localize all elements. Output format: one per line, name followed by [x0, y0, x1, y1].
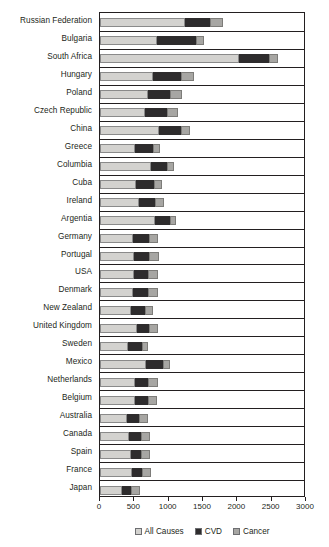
bar-segment-all-causes	[100, 450, 131, 459]
bar-segment-all-causes	[100, 342, 128, 351]
category-label: France	[66, 465, 92, 474]
legend-item: Cancer	[233, 527, 269, 536]
bar-group	[100, 72, 306, 81]
bar-segment-cvd	[155, 216, 170, 225]
bar-segment-cvd	[153, 72, 181, 81]
bar-segment-all-causes	[100, 72, 153, 81]
bar-segment-cvd	[131, 306, 145, 315]
row-separator	[100, 408, 304, 409]
row-separator	[100, 103, 304, 104]
bar-segment-all-causes	[100, 90, 148, 99]
bar-group	[100, 450, 306, 459]
bar-segment-cancer	[148, 378, 158, 387]
bar-segment-cvd	[157, 36, 196, 45]
x-axis-tick-label: 2500	[262, 502, 280, 511]
row-separator	[100, 318, 304, 319]
category-label: Australia	[60, 411, 92, 420]
row-separator	[100, 390, 304, 391]
row-separator	[100, 462, 304, 463]
bar-segment-cancer	[131, 486, 140, 495]
legend-item: CVD	[195, 527, 222, 536]
category-label: Denmark	[58, 285, 92, 294]
bar-segment-cvd	[132, 468, 142, 477]
row-separator	[100, 121, 304, 122]
bar-segment-all-causes	[100, 126, 159, 135]
bar-segment-all-causes	[100, 36, 157, 45]
bar-segment-all-causes	[100, 180, 136, 189]
row-separator	[100, 247, 304, 248]
category-label: South Africa	[47, 52, 92, 61]
bar-group	[100, 234, 306, 243]
category-label: Ireland	[67, 196, 92, 205]
bar-segment-cancer	[149, 234, 158, 243]
bar-segment-cancer	[149, 252, 159, 261]
bar-segment-cvd	[133, 288, 148, 297]
x-axis-tick-label: 1000	[159, 502, 177, 511]
bar-segment-all-causes	[100, 486, 122, 495]
category-label: Spain	[71, 447, 92, 456]
x-axis-tick-label: 2000	[227, 502, 245, 511]
category-label: China	[70, 124, 92, 133]
bar-segment-all-causes	[100, 270, 134, 279]
bar-segment-cancer	[141, 432, 150, 441]
bar-segment-cvd	[135, 396, 148, 405]
bar-group	[100, 54, 306, 63]
bar-segment-cancer	[148, 288, 158, 297]
bar-segment-cancer	[269, 54, 278, 63]
row-separator	[100, 480, 304, 481]
x-axis: 050010001500200025003000	[99, 497, 305, 521]
bar-segment-cancer	[149, 324, 158, 333]
bar-segment-all-causes	[100, 162, 151, 171]
row-separator	[100, 426, 304, 427]
category-label: Argentia	[61, 214, 92, 223]
row-separator	[100, 336, 304, 337]
x-axis-tick-label: 3000	[296, 502, 314, 511]
row-separator	[100, 282, 304, 283]
x-axis-tick	[99, 497, 100, 501]
bar-segment-cvd	[131, 450, 141, 459]
bar-segment-all-causes	[100, 198, 139, 207]
bar-group	[100, 198, 306, 207]
bar-segment-cancer	[154, 180, 162, 189]
bar-segment-cvd	[129, 432, 141, 441]
row-separator	[100, 85, 304, 86]
row-separator	[100, 354, 304, 355]
category-label: New Zealand	[43, 303, 92, 312]
category-label: Columbia	[57, 160, 92, 169]
legend-label: All Causes	[145, 527, 184, 536]
bar-segment-all-causes	[100, 108, 145, 117]
bar-segment-cvd	[134, 270, 149, 279]
bar-group	[100, 468, 306, 477]
bar-segment-cancer	[210, 18, 223, 27]
legend-swatch-all-causes	[135, 528, 142, 535]
row-separator	[100, 193, 304, 194]
category-label: Mexico	[66, 357, 92, 366]
bar-segment-all-causes	[100, 468, 132, 477]
legend-item: All Causes	[135, 527, 184, 536]
row-separator	[100, 31, 304, 32]
x-axis-tick-label: 0	[97, 502, 101, 511]
bar-segment-cvd	[135, 378, 147, 387]
legend-swatch-cvd	[195, 528, 202, 535]
bar-segment-all-causes	[100, 396, 135, 405]
row-separator	[100, 264, 304, 265]
row-separator	[100, 211, 304, 212]
category-axis-labels: Russian FederationBulgariaSouth AfricaHu…	[0, 12, 96, 497]
bar-segment-cvd	[146, 360, 163, 369]
bar-segment-all-causes	[100, 234, 133, 243]
category-label: Belgium	[62, 393, 92, 402]
row-separator	[100, 157, 304, 158]
bar-segment-cvd	[139, 198, 155, 207]
bar-group	[100, 288, 306, 297]
category-label: Germany	[58, 232, 92, 241]
bar-segment-cancer	[142, 342, 148, 351]
bar-group	[100, 90, 306, 99]
bar-segment-cancer	[148, 270, 157, 279]
bar-segment-all-causes	[100, 432, 129, 441]
x-axis-tick	[168, 497, 169, 501]
bar-segment-cvd	[148, 90, 170, 99]
bar-segment-all-causes	[100, 18, 185, 27]
bar-segment-cancer	[155, 198, 164, 207]
bar-group	[100, 360, 306, 369]
category-label: Japan	[69, 483, 92, 492]
